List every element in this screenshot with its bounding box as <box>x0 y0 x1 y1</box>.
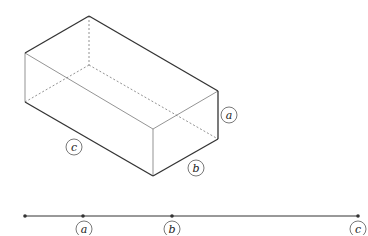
label-c: c <box>66 139 82 155</box>
svg-text:a: a <box>81 223 88 236</box>
outline-edges <box>25 16 218 176</box>
svg-text:b: b <box>168 223 175 236</box>
number-line-point-a <box>81 214 85 218</box>
prism-diagram: a b c a b c <box>0 0 368 235</box>
number-line-point-b <box>170 214 174 218</box>
number-line-start-point <box>23 214 27 218</box>
number-line-point-c <box>356 214 360 218</box>
svg-text:c: c <box>71 141 77 154</box>
label-b: b <box>188 160 204 176</box>
svg-text:b: b <box>192 162 199 175</box>
svg-text:a: a <box>226 109 233 122</box>
label-a: a <box>221 107 237 123</box>
number-line: a b c <box>23 214 366 235</box>
svg-text:c: c <box>355 223 361 236</box>
